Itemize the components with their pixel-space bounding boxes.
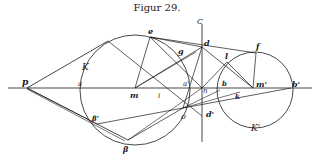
tangent-p-upper — [27, 41, 108, 88]
label-i: i — [158, 92, 160, 100]
label-d: d — [204, 38, 210, 48]
label-m-prime: m' — [256, 79, 267, 89]
label-o: o — [181, 112, 186, 121]
line-l-m-prime — [227, 62, 253, 88]
label-k: K — [81, 62, 90, 72]
label-a: a — [78, 80, 82, 88]
line-e-f — [150, 37, 256, 53]
label-e: e — [148, 26, 153, 36]
label-b: b — [222, 79, 227, 88]
label-n: n — [203, 87, 208, 95]
label-d-prime: d' — [206, 109, 214, 119]
label-c: C — [197, 17, 203, 26]
label-k-prime: K' — [250, 123, 260, 133]
figure-29: Figur 29. — [0, 0, 314, 157]
label-k-small: k — [235, 92, 240, 101]
line-p-beta-prime — [27, 88, 97, 124]
geometric-diagram: p a K m i e g C d a' n o d' l b m' f b' … — [0, 0, 314, 157]
label-b-prime: b' — [292, 79, 300, 89]
label-f: f — [255, 41, 261, 51]
label-beta-prime: β' — [91, 114, 99, 123]
line-d-o — [183, 47, 202, 108]
line-p-beta-2 — [27, 89, 125, 141]
label-l: l — [225, 51, 228, 61]
label-a-prime: a' — [183, 80, 189, 88]
figure-title: Figur 29. — [0, 2, 314, 13]
label-m: m — [130, 90, 138, 100]
label-p: p — [22, 77, 29, 87]
label-beta: β — [122, 144, 129, 154]
line-beta-n — [128, 88, 202, 140]
line-tangent-to-d-prime — [108, 41, 202, 116]
label-g: g — [178, 46, 184, 56]
